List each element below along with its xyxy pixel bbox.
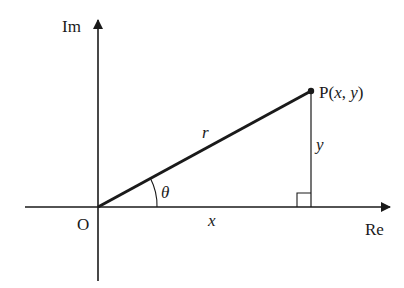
point-p-y: y [348,83,358,102]
point-p-label: P(x, y) [319,83,363,102]
angle-label: θ [161,183,169,202]
angle-arc [151,179,158,208]
real-axis-label: Re [365,220,384,239]
right-angle-marker [297,193,311,207]
point-p-suffix: ) [358,83,364,102]
imaginary-axis-label: Im [62,17,81,36]
point-p-prefix: P( [319,83,334,102]
point-p-sep: , [342,83,351,102]
horizontal-length-label: x [207,211,216,230]
radius-label: r [202,123,209,142]
diagram-canvas: Im Re O P(x, y) r y x θ [0,0,404,288]
vertical-length-label: y [314,135,324,154]
complex-plane-diagram: Im Re O P(x, y) r y x θ [0,0,404,288]
point-p-dot [308,88,314,94]
origin-label: O [77,215,89,234]
radius-line [98,91,311,207]
